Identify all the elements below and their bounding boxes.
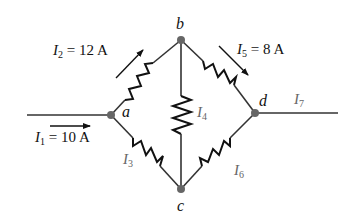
current-I7-label: I7	[294, 92, 304, 109]
resistor-bc	[173, 40, 191, 189]
current-I3-label: I3	[123, 152, 133, 169]
I2-sub: 2	[58, 49, 63, 60]
current-I1-label: I1 = 10 A	[35, 130, 90, 147]
I3-sub: 3	[128, 158, 133, 169]
I7-sub: 7	[299, 98, 304, 109]
current-I2-label: I2 = 12 A	[53, 43, 108, 60]
circuit-svg	[0, 0, 358, 223]
I5-sub: 5	[242, 48, 247, 59]
current-I5-label: I5 = 8 A	[237, 42, 284, 59]
I2-value: = 12 A	[67, 42, 108, 58]
I5-value: = 8 A	[251, 41, 284, 57]
node-d-dot	[251, 109, 259, 117]
node-c-label: c	[177, 198, 184, 214]
resistor-ac	[111, 115, 181, 189]
node-d-label: d	[259, 93, 267, 109]
current-I4-label: I4	[197, 105, 207, 122]
current-I6-label: I6	[234, 163, 244, 180]
I6-sub: 6	[239, 169, 244, 180]
I4-sub: 4	[202, 111, 207, 122]
node-b-label: b	[176, 16, 184, 32]
node-a-dot	[107, 111, 115, 119]
circuit-diagram: b a c d I1 = 10 A I2 = 12 A I5 = 8 A I3 …	[0, 0, 358, 223]
node-c-dot	[177, 185, 185, 193]
arrow-I2-icon	[116, 50, 143, 78]
I1-sub: 1	[40, 136, 45, 147]
node-b-dot	[177, 36, 185, 44]
node-a-label: a	[122, 104, 130, 120]
I1-value: = 10 A	[49, 129, 90, 145]
